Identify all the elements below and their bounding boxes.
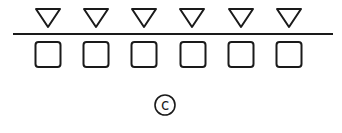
square-icon xyxy=(132,42,157,67)
diagram-canvas: c xyxy=(0,0,342,133)
square-row xyxy=(36,42,302,67)
inverted-triangle-icon xyxy=(84,9,108,27)
figure-label: c xyxy=(155,95,175,115)
inverted-triangle-icon xyxy=(277,9,301,27)
square-icon xyxy=(36,42,61,67)
square-icon xyxy=(229,42,254,67)
label-letter: c xyxy=(161,96,169,114)
triangle-row xyxy=(36,9,301,27)
square-icon xyxy=(277,42,302,67)
inverted-triangle-icon xyxy=(229,9,253,27)
inverted-triangle-icon xyxy=(36,9,60,27)
inverted-triangle-icon xyxy=(132,9,156,27)
inverted-triangle-icon xyxy=(180,9,204,27)
square-icon xyxy=(181,42,206,67)
square-icon xyxy=(84,42,109,67)
